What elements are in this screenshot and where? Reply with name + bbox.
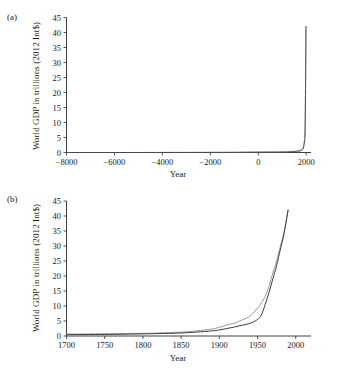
- y-tick-label: 20: [40, 89, 61, 98]
- y-tick-label: 10: [40, 302, 61, 311]
- y-tick-label: 15: [40, 104, 61, 113]
- y-tick-label: 30: [40, 242, 61, 251]
- y-tick-label: 20: [40, 272, 61, 281]
- x-tick-label: −2000: [184, 158, 236, 167]
- y-tick-label: 35: [40, 227, 61, 236]
- data-series-series-dark: [67, 27, 306, 153]
- y-tick-label: 40: [40, 212, 61, 221]
- y-tick-label: 45: [40, 197, 61, 206]
- y-tick-label: 35: [40, 44, 61, 53]
- y-tick-label: 25: [40, 74, 61, 83]
- y-tick-label: 30: [40, 59, 61, 68]
- data-series-series-light: [67, 210, 289, 334]
- data-series-series-dark: [67, 210, 289, 335]
- y-tick-label: 40: [40, 29, 61, 38]
- x-tick-label: −6000: [88, 158, 140, 167]
- y-tick-label: 5: [40, 317, 61, 326]
- x-tick-label: 0: [232, 158, 284, 167]
- x-tick-label: −8000: [41, 158, 93, 167]
- y-tick-label: 5: [40, 134, 61, 143]
- chart-panel-b: (b) World GDP in trillions (2012 Int$) Y…: [0, 185, 341, 381]
- y-tick-label: 15: [40, 287, 61, 296]
- y-tick-label: 0: [40, 149, 61, 158]
- y-tick-label: 10: [40, 119, 61, 128]
- y-tick-label: 25: [40, 257, 61, 266]
- axis-lines: [67, 18, 312, 153]
- x-tick-label: 2000: [270, 341, 322, 350]
- y-tick-label: 45: [40, 14, 61, 23]
- x-tick-label: 2000: [280, 158, 332, 167]
- chart-panel-a: (a) World GDP in trillions (2012 Int$) Y…: [0, 0, 341, 190]
- x-tick-label: −4000: [136, 158, 188, 167]
- data-series-series-light: [67, 27, 306, 153]
